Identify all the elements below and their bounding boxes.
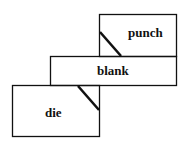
blank-label: blank: [97, 63, 130, 78]
die-edge-line: [78, 86, 99, 110]
diagram-canvas: punch blank die: [0, 0, 189, 143]
die-label: die: [45, 105, 62, 120]
punch-label: punch: [128, 25, 163, 40]
punch-edge-line: [100, 32, 121, 56]
